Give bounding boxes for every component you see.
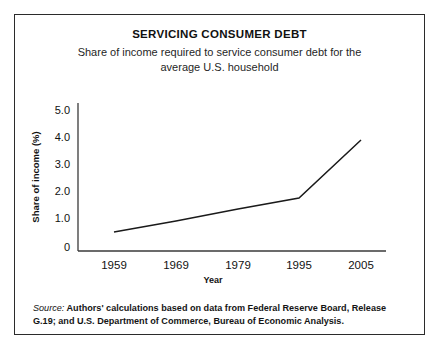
xtick-label-2005: 2005 xyxy=(348,259,374,271)
ytick-label-4: 4.0 xyxy=(55,131,70,143)
xtick-label-1979: 1979 xyxy=(225,259,251,271)
xtick-label-1969: 1969 xyxy=(163,259,189,271)
x-axis-title: Year xyxy=(203,275,223,285)
chart-plot-area: 5.0 4.0 3.0 2.0 1.0 0 1959 1969 1979 199… xyxy=(15,15,426,336)
xtick-label-1959: 1959 xyxy=(101,259,127,271)
data-line-series xyxy=(114,140,361,232)
source-label: Source: xyxy=(33,303,64,313)
ytick-label-3: 3.0 xyxy=(55,158,70,170)
ytick-label-2: 2.0 xyxy=(55,185,70,197)
source-text: Authors' calculations based on data from… xyxy=(33,303,386,326)
figure-frame: SERVICING CONSUMER DEBT Share of income … xyxy=(14,14,425,335)
ytick-label-1: 1.0 xyxy=(55,212,70,224)
ytick-label-0: 0 xyxy=(64,241,70,253)
source-note: Source: Authors' calculations based on d… xyxy=(33,302,409,328)
y-axis-title: Share of income (%) xyxy=(30,131,41,222)
ytick-label-5: 5.0 xyxy=(55,104,70,116)
xtick-label-1995: 1995 xyxy=(286,259,312,271)
line-chart-svg: 5.0 4.0 3.0 2.0 1.0 0 1959 1969 1979 199… xyxy=(15,15,426,315)
